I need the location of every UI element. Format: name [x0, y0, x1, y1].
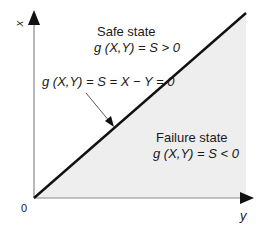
safe-state-equation: g (X,Y) = S > 0 [94, 40, 180, 55]
origin-label: 0 [21, 201, 27, 216]
vertical-axis-label: x [12, 21, 27, 27]
limit-state-diagram: x y 0 Safe state g (X,Y) = S > 0 g (X,Y)… [0, 0, 265, 230]
horizontal-axis-arrow-icon [240, 192, 254, 204]
boundary-equation: g (X,Y) = S = X − Y = 0 [42, 74, 175, 89]
pointer-line [86, 93, 110, 122]
failure-state-equation: g (X,Y) = S < 0 [153, 146, 239, 161]
horizontal-axis-label: y [240, 208, 247, 223]
vertical-axis-arrow-icon [28, 10, 40, 25]
failure-state-title: Failure state [156, 130, 228, 145]
safe-state-title: Safe state [97, 24, 156, 39]
